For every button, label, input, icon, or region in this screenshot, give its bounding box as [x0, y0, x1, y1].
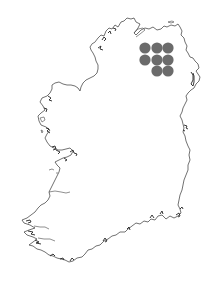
strangford-lough	[191, 72, 194, 86]
ireland-map[interactable]	[0, 0, 220, 282]
map-marker[interactable]	[139, 54, 150, 65]
achill-island	[40, 117, 45, 122]
dingle-bay	[34, 226, 49, 229]
marker-grid	[139, 42, 173, 76]
kenmare-river	[38, 238, 55, 241]
aran-islands	[49, 169, 58, 173]
cork-coast-detail	[103, 211, 163, 242]
map-marker[interactable]	[162, 54, 173, 65]
map-marker[interactable]	[162, 42, 173, 53]
shannon-estuary	[49, 191, 70, 193]
west-islet	[41, 130, 43, 133]
donegal-coast-detail	[98, 28, 116, 50]
map-marker[interactable]	[151, 42, 162, 53]
mayo-coast-detail	[44, 96, 60, 154]
map-marker[interactable]	[151, 54, 162, 65]
map-container	[0, 0, 220, 282]
coastline-outline	[22, 18, 200, 262]
map-marker[interactable]	[162, 65, 173, 76]
lough-foyle	[134, 28, 145, 37]
kerry-coast-detail	[26, 220, 74, 261]
map-marker[interactable]	[139, 42, 150, 53]
coastline	[22, 18, 200, 262]
map-marker[interactable]	[151, 65, 162, 76]
rathlin-island	[168, 21, 174, 23]
